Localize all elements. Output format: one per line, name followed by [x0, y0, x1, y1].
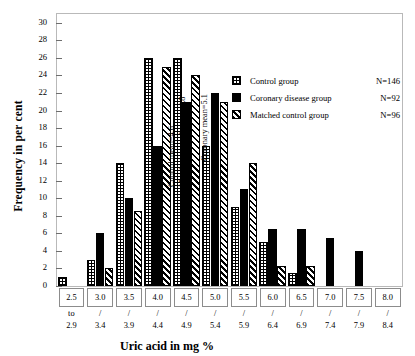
y-tick-label: 16	[38, 140, 47, 150]
x-category-sublabel: /7.9	[345, 308, 374, 334]
x-category-sublabel: /5.9	[230, 308, 259, 334]
bar	[116, 163, 125, 286]
x-category-sublabel: /7.4	[316, 308, 345, 334]
bar	[355, 251, 364, 286]
legend-swatch-icon	[232, 93, 241, 102]
bar	[249, 163, 258, 286]
y-tick-label: 24	[38, 69, 47, 79]
bar	[297, 229, 306, 286]
legend: Control groupN=146Coronary disease group…	[232, 72, 402, 123]
x-category-sublabel: to2.9	[57, 308, 86, 334]
legend-count: N=146	[376, 76, 400, 86]
x-category-box: 3.0	[87, 288, 113, 307]
uric-acid-frequency-chart: Frequency in per cent 024681012141618202…	[0, 0, 415, 356]
y-tick-mark	[56, 286, 62, 287]
bar	[153, 146, 162, 286]
bar-group	[258, 14, 287, 286]
x-category-sublabel: /3.9	[115, 308, 144, 334]
bar	[220, 102, 229, 286]
x-category-sublabel: /3.4	[86, 308, 115, 334]
y-tick-label: 2	[43, 262, 47, 272]
y-tick-label: 22	[38, 87, 47, 97]
y-tick-label: 6	[43, 227, 47, 237]
bar-group	[86, 14, 115, 286]
x-category-sublabel: /4.4	[143, 308, 172, 334]
bar-group	[230, 14, 259, 286]
y-tick-label: 0	[43, 280, 47, 290]
y-tick-label: 26	[38, 52, 47, 62]
bar	[306, 266, 315, 286]
y-tick-label: 14	[38, 157, 47, 167]
bar	[211, 93, 220, 286]
mean-annotation: Matched control mean=4.8	[178, 96, 187, 187]
y-tick-label: 12	[38, 175, 47, 185]
legend-swatch-icon	[232, 110, 241, 119]
legend-item: Control groupN=146	[232, 72, 402, 89]
bar	[277, 266, 286, 286]
legend-label: Control group	[250, 76, 298, 86]
y-tick-label: 10	[38, 192, 47, 202]
y-tick-label: 20	[38, 105, 47, 115]
x-category-box: 5.5	[231, 288, 257, 307]
y-tick-label: 4	[43, 245, 47, 255]
bar	[259, 242, 268, 286]
bars-area	[57, 14, 402, 286]
bar	[134, 211, 143, 286]
legend-count: N=92	[380, 93, 400, 103]
bar-group	[115, 14, 144, 286]
x-category-box: 6.0	[260, 288, 286, 307]
bar-group	[345, 14, 374, 286]
bar-group	[373, 14, 402, 286]
legend-label: Coronary disease group	[250, 93, 332, 103]
y-axis-tick-labels: 024681012141618202224262830	[20, 13, 56, 287]
x-category-box: 7.0	[317, 288, 343, 307]
y-tick-label: 28	[38, 34, 47, 44]
x-category-box: 3.5	[116, 288, 142, 307]
legend-label: Matched control group	[250, 110, 329, 120]
bar	[231, 207, 240, 286]
bar	[202, 146, 211, 286]
bar	[326, 238, 335, 286]
x-category-box: 7.5	[346, 288, 372, 307]
legend-count: N=96	[380, 110, 400, 120]
bar	[58, 277, 67, 286]
bar	[240, 189, 249, 286]
x-category-sublabel: /6.4	[258, 308, 287, 334]
bar	[191, 75, 200, 286]
x-category-box: 5.0	[202, 288, 228, 307]
y-tick-label: 18	[38, 122, 47, 132]
bar	[125, 198, 134, 286]
mean-annotation: Control mean=4.6	[167, 126, 176, 187]
bar-group	[57, 14, 86, 286]
x-category-sublabel: /5.4	[201, 308, 230, 334]
bar	[144, 58, 153, 286]
bar	[268, 229, 277, 286]
mean-annotation: Coronary mean=5.1	[200, 94, 209, 161]
y-tick-label: 30	[38, 17, 47, 27]
x-axis-title: Uric acid in mg %	[120, 339, 370, 354]
x-category-sublabel: /4.9	[172, 308, 201, 334]
bar	[288, 273, 297, 286]
bar	[87, 260, 96, 286]
x-category-box: 6.5	[289, 288, 315, 307]
y-tick-label: 8	[43, 210, 47, 220]
x-category-sublabel: /6.9	[287, 308, 316, 334]
x-category-box: 8.0	[375, 288, 401, 307]
x-category-sublabel: /8.4	[373, 308, 402, 334]
x-category-box: 4.0	[145, 288, 171, 307]
bar	[96, 233, 105, 286]
x-category-box: 2.5	[59, 288, 85, 307]
legend-item: Matched control groupN=96	[232, 106, 402, 123]
legend-swatch-icon	[232, 76, 241, 85]
bar	[105, 268, 114, 286]
x-axis-category-boxes: 2.53.03.54.04.55.05.56.06.57.07.58.0	[57, 288, 402, 307]
x-category-box: 4.5	[174, 288, 200, 307]
bar-group	[287, 14, 316, 286]
bar-group	[316, 14, 345, 286]
legend-item: Coronary disease groupN=92	[232, 89, 402, 106]
